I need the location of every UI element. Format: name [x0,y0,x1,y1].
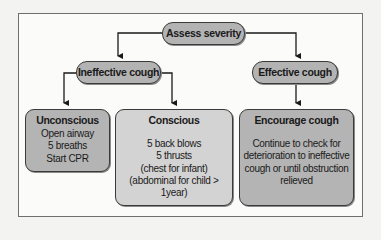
effective-cough-node: Effective cough [252,61,338,84]
ineffective-cough-label: Ineffective cough [78,66,159,78]
conscious-title: Conscious [116,114,232,126]
conscious-step: 5 back blows [116,138,232,150]
assess-severity-node: Assess severity [162,22,245,45]
encourage-cough-text: relieved [240,175,353,187]
ineffective-cough-node: Ineffective cough [76,61,161,84]
effective-cough-label: Effective cough [258,66,332,78]
encourage-cough-text: Continue to check for [240,138,353,150]
unconscious-box: Unconscious Open airway 5 breaths Start … [25,109,110,172]
encourage-cough-title: Encourage cough [240,114,353,126]
unconscious-step: 5 breaths [26,140,109,152]
conscious-step: (abdominal for child > 1year) [116,175,232,199]
unconscious-step: Start CPR [26,153,109,165]
unconscious-title: Unconscious [26,114,109,126]
conscious-box: Conscious 5 back blows 5 thrusts (chest … [115,109,233,206]
encourage-cough-text: cough or until obstruction [240,163,353,175]
conscious-step: (chest for infant) [116,163,232,175]
encourage-cough-box: Encourage cough Continue to check for de… [239,109,354,206]
assess-severity-label: Assess severity [166,27,241,39]
conscious-step: 5 thrusts [116,150,232,162]
unconscious-step: Open airway [26,128,109,140]
encourage-cough-text: deterioration to ineffective [240,150,353,162]
